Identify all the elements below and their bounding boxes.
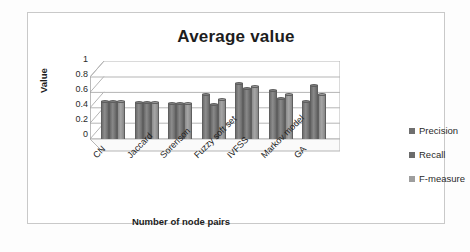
bar[interactable]: [269, 90, 277, 139]
y-tick-0.4: 0.4: [75, 100, 88, 109]
y-tick-0.6: 0.6: [75, 85, 88, 94]
legend-swatch-icon-fmeasure: [409, 176, 415, 182]
legend-swatch-icon-precision: [409, 128, 415, 134]
x-axis-tick-labels: CNJaccardSorensonFuzzy soft setIVFSSMark…: [83, 153, 383, 208]
bar[interactable]: [101, 101, 109, 139]
bar[interactable]: [310, 85, 318, 139]
chart-title: Average value: [28, 27, 444, 47]
legend-label-precision: Precision: [419, 125, 458, 136]
legend-label-fmeasure: F-measure: [419, 173, 465, 184]
chart-legend: Precision Recall F-measure: [409, 125, 470, 197]
legend-item-recall[interactable]: Recall: [409, 149, 470, 160]
bar[interactable]: [151, 102, 159, 139]
bar[interactable]: [318, 94, 326, 139]
bar[interactable]: [168, 103, 176, 139]
bar[interactable]: [243, 88, 251, 139]
legend-item-fmeasure[interactable]: F-measure: [409, 173, 470, 184]
bar[interactable]: [202, 94, 210, 139]
y-tick-0.8: 0.8: [75, 70, 88, 79]
bar[interactable]: [251, 86, 259, 139]
x-axis-title: Number of node pairs: [28, 216, 334, 227]
y-axis-tick-labels: 1 0.8 0.6 0.4 0.2 0: [62, 55, 88, 155]
chart-frame: Average value Value 1 0.8 0.6 0.4 0.2 0: [27, 12, 445, 224]
bar[interactable]: [235, 83, 243, 139]
bar-group: [101, 101, 127, 139]
y-tick-0: 0: [83, 130, 88, 139]
bar-group: [302, 85, 328, 139]
y-tick-0.2: 0.2: [75, 115, 88, 124]
bar[interactable]: [117, 101, 125, 139]
legend-swatch-icon-recall: [409, 152, 415, 158]
bar[interactable]: [109, 101, 117, 139]
legend-item-precision[interactable]: Precision: [409, 125, 470, 136]
legend-label-recall: Recall: [419, 149, 445, 160]
y-axis-title: Value: [38, 68, 49, 93]
bar-group: [235, 83, 261, 139]
bar[interactable]: [135, 102, 143, 139]
y-tick-1: 1: [83, 55, 88, 64]
